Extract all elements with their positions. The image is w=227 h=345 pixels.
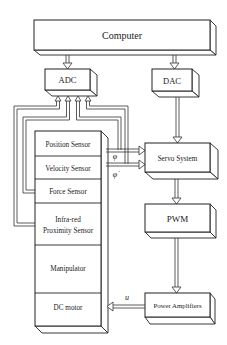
arrow-computer-to-adc: [63, 55, 72, 69]
computer-block: Computer: [34, 20, 216, 55]
pwm-label: PWM: [167, 214, 189, 224]
infrared-label-line1: Infra-red: [55, 216, 81, 224]
force-sensor-label: Force Sensor: [49, 188, 87, 196]
infrared-label-line2: Proximity Sensor: [43, 227, 94, 235]
power-amplifiers-label: Power Amplifiers: [153, 302, 201, 309]
adc-block: ADC: [45, 69, 97, 96]
computer-label: Computer: [102, 30, 143, 41]
pwm-block: PWM: [145, 204, 216, 238]
arrow-power-to-dc-motor: [107, 302, 145, 311]
dac-block: DAC: [152, 69, 199, 97]
arrow-servo-to-pwm: [172, 179, 181, 204]
arrow-pwm-to-power-amplifiers: [172, 238, 181, 293]
dc-motor-label: DC motor: [54, 304, 84, 312]
adc-label: ADC: [59, 75, 77, 85]
power-amplifiers-block: Power Amplifiers: [145, 293, 215, 324]
phi-label: φ: [113, 152, 118, 161]
sensor-manipulator-stack: Position Sensor Velocity Sensor Force Se…: [35, 131, 108, 333]
arrow-computer-to-dac: [170, 55, 179, 69]
servo-system-label: Servo System: [158, 155, 198, 163]
velocity-sensor-label: Velocity Sensor: [45, 165, 91, 173]
dac-label: DAC: [163, 76, 181, 86]
position-sensor-label: Position Sensor: [46, 141, 92, 149]
arrow-dac-to-servo: [173, 97, 182, 143]
phi-dot-label: φ̇: [113, 170, 120, 179]
arrow-velocity-to-servo: [106, 160, 145, 169]
servo-system-block: Servo System: [145, 143, 218, 179]
control-block-diagram: Computer ADC DAC: [0, 0, 227, 345]
u-label: u: [125, 293, 129, 302]
manipulator-label: Manipulator: [50, 265, 86, 273]
